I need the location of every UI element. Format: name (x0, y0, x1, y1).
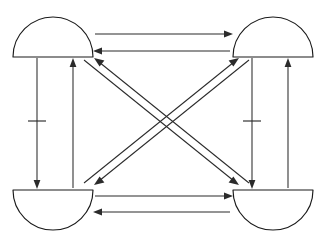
edge-group-vertical-right (243, 58, 291, 189)
arrowhead-right-icon (224, 193, 233, 200)
edge-diag-tr-to-bl[interactable] (94, 60, 249, 185)
node-shape-bowl (233, 190, 313, 230)
edge-diag-bl-to-tr[interactable] (84, 58, 239, 183)
arrowhead-up-icon (70, 58, 77, 67)
edge-left-up[interactable] (70, 58, 77, 188)
node-shape-bowl (13, 190, 93, 230)
edge-right-up[interactable] (285, 58, 292, 188)
edge-bottom-left-to-right[interactable] (95, 193, 233, 200)
edge-diag-tl-to-br[interactable] (84, 60, 239, 185)
edge-top-left-to-right[interactable] (95, 31, 233, 38)
edge-left-down[interactable] (28, 58, 46, 189)
edge-diag-br-to-tl[interactable] (94, 58, 249, 183)
edge-group-diagonal-tl-br (84, 58, 249, 185)
edge-bottom-right-to-left[interactable] (93, 209, 230, 216)
node-top-right[interactable] (233, 17, 313, 57)
edge-line (99, 62, 249, 183)
node-shape-dome (233, 17, 313, 57)
arrowhead-right-icon (224, 31, 233, 38)
arrowhead-down-icon (249, 180, 256, 189)
diagram-canvas (0, 0, 327, 235)
edge-group-horizontal-top (93, 31, 233, 55)
arrowhead-down-icon (34, 180, 41, 189)
edge-line (84, 62, 234, 183)
edge-group-vertical-left (28, 58, 76, 189)
edge-top-right-to-left[interactable] (93, 48, 230, 55)
arrowhead-up-icon (285, 58, 292, 67)
edge-right-down[interactable] (243, 58, 261, 189)
diagram-svg (0, 0, 327, 235)
node-top-left[interactable] (13, 17, 93, 57)
arrowhead-left-icon (93, 48, 102, 55)
node-shape-dome (13, 17, 93, 57)
arrowhead-left-icon (93, 209, 102, 216)
edge-line (84, 60, 234, 181)
edge-group-diagonal-bl-tr (84, 58, 249, 185)
node-bottom-left[interactable] (13, 190, 93, 230)
edge-group-horizontal-bottom (93, 193, 233, 216)
node-bottom-right[interactable] (233, 190, 313, 230)
edge-line (99, 60, 249, 181)
